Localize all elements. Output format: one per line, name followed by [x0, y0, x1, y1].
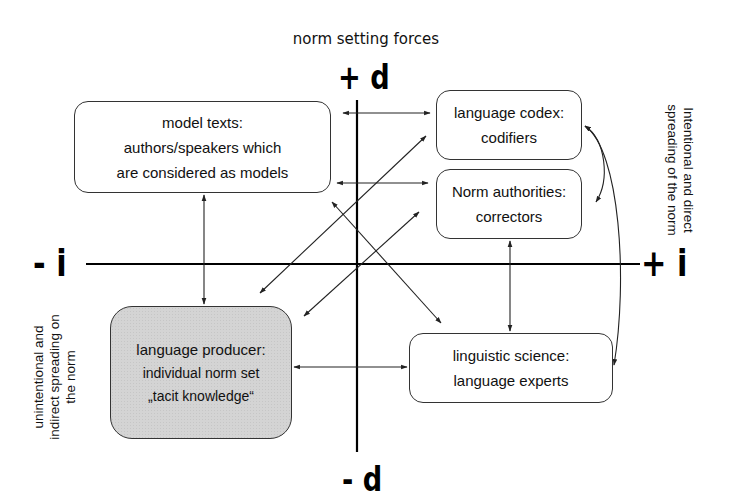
box-language-codex: language codex: codifiers: [436, 90, 582, 160]
left-label-line1: unintentional and: [31, 314, 47, 439]
codex-heading: language codex:: [454, 100, 564, 125]
right-label-line2: spreading of the norm: [664, 104, 680, 235]
science-heading: linguistic science:: [453, 343, 570, 368]
left-label-line2: indirect spreading on: [47, 314, 63, 439]
model-texts-line1: authors/speakers which: [124, 135, 282, 160]
label-unintentional-indirect: unintentional and indirect spreading on …: [31, 314, 79, 439]
box-model-texts: model texts: authors/speakers which are …: [74, 101, 331, 193]
left-label-line3: the norm: [63, 314, 79, 439]
right-label-line1: Intentional and direct: [680, 104, 696, 235]
producer-heading: language producer:: [136, 337, 265, 362]
box-language-producer: language producer: individual norm set „…: [110, 306, 292, 439]
authorities-heading: Norm authorities:: [452, 179, 566, 204]
science-line1: language experts: [453, 368, 568, 393]
box-linguistic-science: linguistic science: language experts: [409, 333, 613, 403]
box-norm-authorities: Norm authorities: correctors: [436, 169, 582, 239]
authorities-line1: correctors: [476, 204, 543, 229]
producer-line2: „tacit knowledge“: [148, 385, 254, 408]
label-intentional-direct: Intentional and direct spreading of the …: [664, 104, 696, 235]
diagram-connectors: [0, 0, 732, 503]
model-texts-line2: are considered as models: [117, 160, 289, 185]
model-texts-heading: model texts:: [162, 110, 243, 135]
producer-line1: individual norm set: [143, 362, 260, 385]
codex-line1: codifiers: [481, 125, 537, 150]
